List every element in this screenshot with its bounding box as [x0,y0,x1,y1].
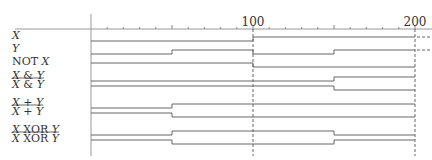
signal-labels: XYNOT XX & YX & YX + YX + YX XOR YX XOR … [11,29,61,145]
signal-label: NOT X [12,55,50,68]
signal-label: X & Y [11,78,46,91]
axis-tick-label: 200 [404,15,427,29]
signal-label: Y [12,42,21,55]
signal-waveform [91,63,415,67]
signal-waveform [91,37,415,41]
signal-label: X + Y [11,105,45,118]
signal-waveform [91,50,415,54]
axis-tick-label: 100 [242,15,265,29]
timing-diagram: 100200 XYNOT XX & YX & YX + YX + YX XOR … [0,0,432,160]
signal-label: X [11,29,21,42]
signal-label: X XOR Y [11,132,61,145]
time-markers [253,29,432,156]
